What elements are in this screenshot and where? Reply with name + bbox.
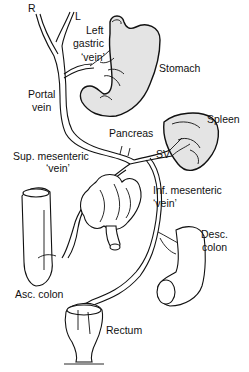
portal-venous-diagram: R L Left gastric ‘vein’ Stomach Portal v… (0, 0, 249, 372)
label-left-gastric-1: Left (86, 24, 104, 36)
label-rectum: Rectum (106, 324, 142, 336)
label-spleen: Spleen (207, 113, 240, 125)
label-inf-mesenteric-1: Inf. mesenteric (153, 184, 222, 196)
label-desc-colon-1: Desc. (201, 228, 228, 240)
label-stomach: Stomach (159, 62, 200, 74)
label-left-gastric-2: gastric (73, 37, 104, 49)
label-portal-2: vein (32, 101, 51, 113)
label-sup-mesenteric-1: Sup. mesenteric (13, 150, 89, 162)
label-pancreas: Pancreas (109, 127, 153, 139)
label-sup-mesenteric-2: ‘vein’ (46, 162, 70, 174)
label-sv: SV (156, 148, 170, 160)
label-desc-colon-2: colon (202, 241, 227, 253)
label-portal-1: Portal (28, 88, 55, 100)
label-left: L (75, 10, 81, 22)
label-asc-colon: Asc. colon (15, 288, 63, 300)
label-inf-mesenteric-2: ‘vein’ (153, 197, 177, 209)
small-intestine (81, 175, 142, 230)
ascending-colon (22, 188, 52, 286)
label-left-gastric-3: ‘vein’ (81, 51, 105, 63)
label-right: R (28, 2, 36, 14)
portal-vein (36, 12, 74, 134)
